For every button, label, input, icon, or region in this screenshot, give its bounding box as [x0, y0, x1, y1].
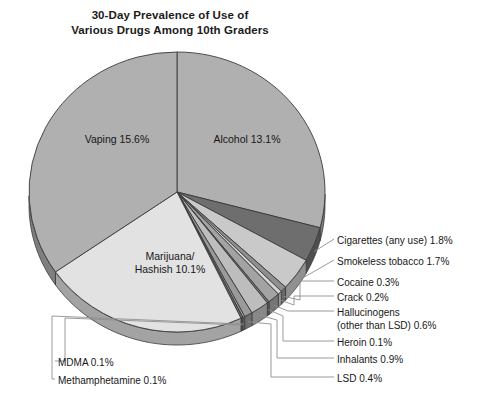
- callout-label-inhalants: Inhalants 0.9%: [337, 354, 403, 367]
- leader-line-hallucinogens: [274, 305, 334, 311]
- callout-label-hallucinogens-line-2: (other than LSD) 0.6%: [337, 320, 437, 333]
- callout-label-smokeless-tobacco: Smokeless tobacco 1.7%: [337, 256, 449, 269]
- leader-line-lsd: [248, 322, 334, 377]
- callout-label-cocaine: Cocaine 0.3%: [337, 277, 399, 290]
- pie-chart-figure: 30-Day Prevalence of Use of Various Drug…: [0, 0, 481, 401]
- slice-label-vaping: Vaping 15.6%: [62, 133, 172, 146]
- pie-graphic: [0, 0, 481, 401]
- slice-label-marijuana-line-2: Hashish 10.1%: [115, 263, 225, 276]
- callout-label-cigarettes: Cigarettes (any use) 1.8%: [337, 235, 453, 248]
- callout-label-heroin: Heroin 0.1%: [337, 337, 392, 350]
- slice-label-marijuana: Marijuana/ Hashish 10.1%: [115, 250, 225, 276]
- callout-label-crack: Crack 0.2%: [337, 292, 389, 305]
- callout-label-methamphetamine: Methamphetamine 0.1%: [58, 375, 166, 388]
- callout-label-mdma: MDMA 0.1%: [58, 357, 114, 370]
- callout-label-hallucinogens: Hallucinogens (other than LSD) 0.6%: [337, 307, 437, 332]
- callout-label-lsd: LSD 0.4%: [337, 373, 382, 386]
- slice-label-alcohol: Alcohol 13.1%: [192, 133, 302, 146]
- leader-line-heroin: [268, 310, 334, 342]
- callout-label-hallucinogens-line-1: Hallucinogens: [337, 307, 437, 320]
- slice-label-marijuana-line-1: Marijuana/: [115, 250, 225, 263]
